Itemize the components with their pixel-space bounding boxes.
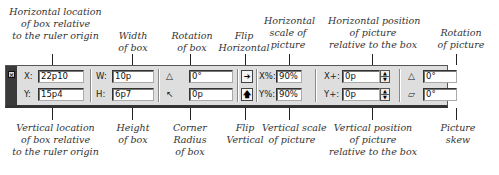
callout-line: of box bbox=[168, 42, 216, 54]
leader-line bbox=[372, 108, 373, 120]
callout-line: Horizontal location bbox=[8, 6, 103, 18]
callout-line: Height bbox=[110, 122, 156, 134]
picture-rotation-icon: △ bbox=[408, 70, 415, 82]
callout-line: Picture bbox=[436, 122, 480, 134]
leader-line bbox=[132, 108, 133, 120]
callout-line: to the ruler origin bbox=[8, 146, 103, 158]
leader-line bbox=[289, 108, 290, 120]
leader-line bbox=[372, 54, 373, 65]
leader-line bbox=[132, 54, 133, 65]
corner-radius-field[interactable]: 0p bbox=[189, 88, 233, 101]
y-label: Y: bbox=[24, 88, 31, 100]
scale-x-field[interactable]: 90% bbox=[276, 70, 302, 83]
callout-line: of picture bbox=[430, 39, 492, 51]
scale-y-label: Y%: bbox=[259, 88, 275, 100]
callout-rotation-picture: Rotation of picture bbox=[430, 27, 492, 51]
leader-line bbox=[456, 108, 457, 120]
callout-line: of picture bbox=[262, 134, 322, 146]
callout-horizontal-location: Horizontal location of box relative to t… bbox=[8, 6, 103, 42]
callout-corner-radius: Corner Radius of box bbox=[168, 122, 212, 158]
callout-line: Width bbox=[110, 30, 156, 42]
callout-line: to the ruler origin bbox=[8, 30, 103, 42]
scale-x-label: X%: bbox=[259, 70, 276, 82]
callout-line: of box relative bbox=[8, 18, 103, 30]
callout-line: Rotation bbox=[168, 30, 216, 42]
leader-line bbox=[456, 54, 457, 65]
callout-line: Rotation bbox=[430, 27, 492, 39]
stepper-down-icon[interactable]: ▼ bbox=[381, 76, 389, 82]
x-label: X: bbox=[24, 70, 33, 82]
leader-line bbox=[245, 108, 246, 120]
section-divider bbox=[237, 69, 238, 102]
offset-y-field[interactable]: 0p bbox=[342, 88, 380, 101]
section-divider bbox=[256, 69, 257, 102]
picture-rotation-field[interactable]: 0° bbox=[423, 70, 457, 83]
leader-line bbox=[190, 54, 191, 65]
picture-skew-icon: ▱ bbox=[408, 88, 415, 100]
callout-width: Width of box bbox=[110, 30, 156, 54]
offset-x-field[interactable]: 0p bbox=[342, 70, 380, 83]
scale-y-field[interactable]: 90% bbox=[276, 88, 302, 101]
box-rotation-icon: △ bbox=[166, 70, 173, 82]
callout-rotation-box: Rotation of box bbox=[168, 30, 216, 54]
callout-height: Height of box bbox=[110, 122, 156, 146]
stepper-down-icon[interactable]: ▼ bbox=[381, 94, 389, 100]
height-field[interactable]: 6p7 bbox=[112, 88, 154, 101]
callout-line: of box bbox=[110, 134, 156, 146]
callout-line: Vertical position bbox=[328, 122, 418, 134]
callout-line: of box relative bbox=[8, 134, 103, 146]
callout-line: relative to the box bbox=[328, 146, 418, 158]
callout-line: scale of bbox=[264, 27, 312, 39]
y-location-field[interactable]: 15p4 bbox=[38, 88, 84, 101]
leader-line bbox=[289, 54, 290, 65]
corner-radius-icon: ↖ bbox=[166, 88, 174, 100]
offset-x-stepper[interactable]: ▲ ▼ bbox=[380, 70, 390, 83]
callout-line: Vertical scale bbox=[262, 122, 322, 134]
palette-title-strip[interactable]: × bbox=[6, 66, 17, 105]
leader-line bbox=[190, 108, 191, 120]
callout-vertical-scale: Vertical scale of picture bbox=[262, 122, 322, 146]
w-label: W: bbox=[96, 70, 107, 82]
callout-line: picture bbox=[264, 39, 312, 51]
callout-line: relative to the box bbox=[328, 39, 418, 51]
offset-y-stepper[interactable]: ▲ ▼ bbox=[380, 88, 390, 101]
box-rotation-field[interactable]: 0° bbox=[189, 70, 233, 83]
section-divider bbox=[90, 69, 91, 102]
picture-skew-field[interactable]: 0° bbox=[423, 88, 457, 101]
callout-line: of box bbox=[168, 146, 212, 158]
callout-line: Horizontal position bbox=[328, 15, 418, 27]
flip-horizontal-button[interactable]: ➔ bbox=[241, 70, 253, 83]
section-divider bbox=[315, 69, 316, 102]
callout-vertical-location: Vertical location of box relative to the… bbox=[8, 122, 103, 158]
callout-horizontal-scale: Horizontal scale of picture bbox=[264, 15, 312, 51]
offset-x-label: X+: bbox=[324, 70, 340, 82]
callout-vertical-position: Vertical position of picture relative to… bbox=[328, 122, 418, 158]
h-label: H: bbox=[96, 88, 105, 100]
width-field[interactable]: 10p bbox=[112, 70, 154, 83]
callout-line: Horizontal bbox=[264, 15, 312, 27]
callout-line: Vertical location bbox=[8, 122, 103, 134]
callout-line: Corner bbox=[168, 122, 212, 134]
callout-picture-skew: Picture skew bbox=[436, 122, 480, 146]
callout-horizontal-position: Horizontal position of picture relative … bbox=[328, 15, 418, 51]
leader-line bbox=[52, 108, 53, 120]
close-icon[interactable]: × bbox=[8, 71, 15, 78]
flip-vertical-button[interactable]: 🡅 bbox=[241, 88, 253, 101]
leader-line bbox=[52, 54, 53, 65]
section-divider bbox=[399, 69, 400, 102]
x-location-field[interactable]: 22p10 bbox=[38, 70, 84, 83]
offset-y-label: Y+: bbox=[324, 88, 339, 100]
callout-line: skew bbox=[436, 134, 480, 146]
callout-line: of picture bbox=[328, 27, 418, 39]
measurements-palette: × X: 22p10 Y: 15p4 W: 10p H: 6p7 △ 0° ↖ … bbox=[5, 65, 448, 108]
callout-line: of box bbox=[110, 42, 156, 54]
callout-line: Radius bbox=[168, 134, 212, 146]
leader-line bbox=[245, 54, 246, 65]
callout-line: of picture bbox=[328, 134, 418, 146]
section-divider bbox=[158, 69, 159, 102]
